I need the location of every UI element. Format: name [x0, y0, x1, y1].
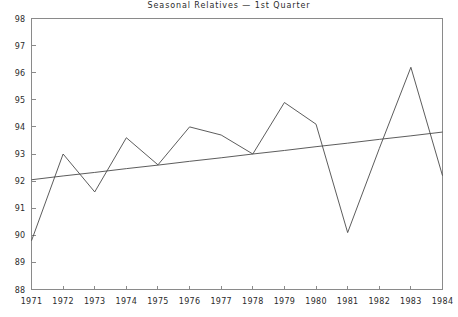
x-tick-label-1971: 1971: [21, 297, 43, 306]
y-tick-label-90: 90: [15, 231, 26, 240]
chart-container: Seasonal Relatives — 1st Quarter 8889909…: [0, 0, 458, 317]
x-tick-label-1975: 1975: [147, 297, 169, 306]
x-tick-label-1980: 1980: [305, 297, 327, 306]
x-axis-tick-labels: 1971197219731974197519761977197819791980…: [21, 297, 454, 306]
axis-frame: [32, 19, 443, 290]
y-tick-label-92: 92: [15, 177, 26, 186]
x-tick-label-1984: 1984: [432, 297, 454, 306]
y-tick-label-88: 88: [15, 286, 26, 295]
x-tick-label-1983: 1983: [400, 297, 422, 306]
x-tick-label-1982: 1982: [368, 297, 390, 306]
y-tick-label-91: 91: [15, 204, 26, 213]
y-tick-label-96: 96: [15, 69, 26, 78]
x-tick-label-1973: 1973: [84, 297, 106, 306]
seasonal-relatives-series: [32, 67, 443, 240]
y-axis-ticks: [32, 19, 36, 290]
axes: [32, 19, 443, 290]
x-tick-label-1976: 1976: [179, 297, 201, 306]
y-tick-label-94: 94: [15, 123, 26, 132]
plot-area: 8889909192939495969798 19711972197319741…: [0, 0, 458, 317]
x-tick-label-1972: 1972: [52, 297, 74, 306]
x-axis-ticks: [32, 286, 443, 290]
x-tick-label-1977: 1977: [210, 297, 232, 306]
y-tick-label-93: 93: [15, 150, 26, 159]
trend-line-series: [32, 132, 443, 180]
y-tick-label-89: 89: [15, 258, 26, 267]
y-axis-tick-labels: 8889909192939495969798: [15, 15, 26, 295]
x-tick-label-1974: 1974: [116, 297, 138, 306]
y-tick-label-98: 98: [15, 15, 26, 24]
y-tick-label-95: 95: [15, 96, 26, 105]
x-tick-label-1981: 1981: [337, 297, 359, 306]
x-tick-label-1978: 1978: [242, 297, 264, 306]
y-tick-label-97: 97: [15, 42, 26, 51]
x-tick-label-1979: 1979: [274, 297, 296, 306]
